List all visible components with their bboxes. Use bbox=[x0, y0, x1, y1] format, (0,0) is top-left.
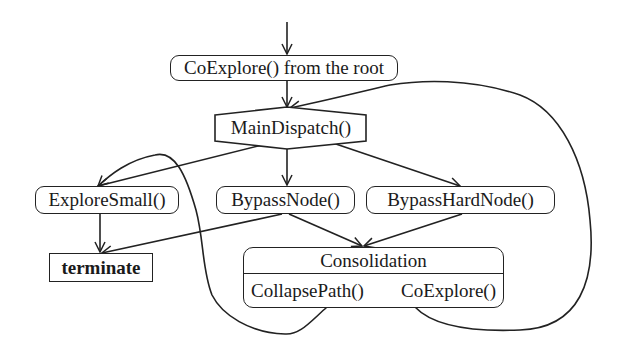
node-coexplore-root-label: CoExplore() from the root bbox=[184, 57, 384, 79]
node-explore-small-label: ExploreSmall() bbox=[48, 189, 165, 211]
operation-coexplore: CoExplore() bbox=[401, 280, 496, 302]
node-main-dispatch: MainDispatch() bbox=[213, 113, 369, 143]
operation-collapse-path: CollapsePath() bbox=[251, 280, 364, 302]
edge-bypassnode-consolidation bbox=[289, 214, 362, 246]
node-terminate-label: terminate bbox=[61, 257, 140, 279]
node-bypass-node-label: BypassNode() bbox=[231, 189, 340, 211]
edge-bypasshardnode-consolidation bbox=[364, 214, 462, 246]
node-bypass-hard-node-label: BypassHardNode() bbox=[387, 189, 534, 211]
node-coexplore-root: CoExplore() from the root bbox=[170, 55, 398, 81]
edge-dispatch-exploresmall bbox=[98, 145, 262, 186]
node-bypass-hard-node: BypassHardNode() bbox=[366, 186, 555, 214]
node-explore-small: ExploreSmall() bbox=[35, 186, 179, 214]
node-consolidation-title: Consolidation bbox=[244, 248, 503, 274]
node-terminate: terminate bbox=[49, 253, 153, 282]
node-bypass-node: BypassNode() bbox=[216, 186, 355, 214]
node-consolidation: Consolidation CollapsePath() CoExplore() bbox=[243, 247, 504, 308]
node-main-dispatch-label: MainDispatch() bbox=[231, 117, 351, 139]
node-consolidation-operations: CollapsePath() CoExplore() bbox=[244, 274, 503, 307]
